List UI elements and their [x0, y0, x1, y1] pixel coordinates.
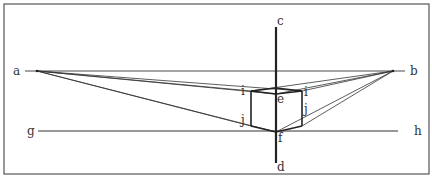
frame-border	[4, 4, 429, 174]
label-f: f	[278, 131, 284, 145]
label-c: c	[277, 14, 284, 28]
label-j-right: j	[302, 102, 308, 116]
label-a: a	[13, 64, 20, 78]
label-d: d	[277, 160, 285, 174]
label-j-left: j	[239, 113, 245, 127]
label-i-left: i	[241, 84, 245, 98]
vanishing-point-b	[392, 70, 395, 73]
vanishing-lines-b	[251, 71, 393, 132]
label-e: e	[277, 92, 284, 106]
label-i-right: i	[304, 85, 308, 99]
vanishing-point-a	[36, 70, 39, 73]
label-b: b	[410, 64, 418, 78]
vanishing-lines-a	[37, 71, 302, 132]
label-h: h	[414, 124, 422, 138]
perspective-diagram: a b c d e f g h i i j j	[0, 0, 432, 176]
label-g: g	[27, 124, 35, 138]
